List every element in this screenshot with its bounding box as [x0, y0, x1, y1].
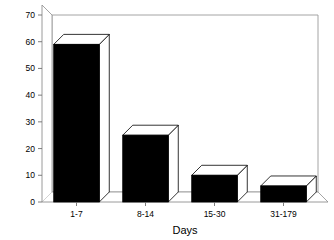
- bar-1-7: [54, 34, 110, 202]
- x-axis: 1-78-1415-3031-179: [70, 202, 297, 219]
- y-tick-label: 60: [26, 37, 36, 47]
- x-tick-label: 15-30: [204, 209, 226, 219]
- y-axis: 010203040506070: [26, 10, 42, 207]
- y-tick-label: 50: [26, 63, 36, 73]
- x-tick-label: 1-7: [70, 209, 83, 219]
- x-tick-label: 31-179: [270, 209, 297, 219]
- bar-top-face: [54, 34, 110, 44]
- y-tick-label: 30: [26, 117, 36, 127]
- y-tick-label: 40: [26, 90, 36, 100]
- y-tick-label: 70: [26, 10, 36, 20]
- bar-side-face: [168, 125, 178, 202]
- bar-front-face: [261, 186, 307, 202]
- y-tick-label: 20: [26, 144, 36, 154]
- bar-8-14: [123, 125, 179, 202]
- left-wall: [42, 5, 52, 202]
- bar-top-face: [192, 165, 248, 175]
- bar-top-face: [261, 176, 317, 186]
- bar-top-face: [123, 125, 179, 135]
- chart-canvas: 010203040506070 1-78-1415-3031-179 Days: [0, 0, 334, 240]
- x-tick-label: 8-14: [137, 209, 154, 219]
- bar-front-face: [192, 175, 238, 202]
- bar-chart-figure: 010203040506070 1-78-1415-3031-179 Days: [0, 0, 334, 240]
- y-tick-label: 10: [26, 170, 36, 180]
- x-axis-title: Days: [172, 224, 198, 236]
- bar-15-30: [192, 165, 248, 202]
- bar-front-face: [54, 44, 100, 202]
- bar-side-face: [99, 34, 109, 202]
- bar-31-179: [261, 176, 317, 202]
- bar-front-face: [123, 135, 169, 202]
- y-tick-label: 0: [30, 197, 35, 207]
